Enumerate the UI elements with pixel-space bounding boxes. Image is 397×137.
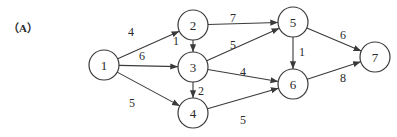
network-diagram: （A） 465175245168 1234567 (0, 0, 397, 137)
node-7: 7 (360, 42, 390, 72)
arrow-icon (118, 31, 180, 59)
edge-weight-5-7: 6 (340, 28, 346, 42)
node-5: 5 (278, 7, 308, 37)
arrow-icon (307, 62, 361, 80)
edge-weight-1-3: 6 (139, 49, 145, 63)
arrow-icon (307, 28, 361, 51)
edge-weights-layer: 465175245168 (128, 11, 346, 127)
arrow-icon (119, 65, 178, 66)
edge-weight-2-5: 7 (230, 11, 236, 25)
edge-weight-3-6: 4 (240, 65, 246, 79)
edge-5-7 (307, 28, 361, 51)
node-label: 5 (290, 15, 297, 30)
node-label: 4 (190, 106, 197, 121)
edge-weight-4-6: 5 (240, 113, 246, 127)
arrow-icon (207, 88, 278, 109)
edge-1-4 (117, 72, 180, 106)
figure-label: （A） (8, 22, 38, 34)
node-label: 7 (372, 50, 379, 65)
node-2: 2 (178, 10, 208, 40)
edge-4-6 (207, 88, 278, 109)
edge-1-3 (119, 65, 178, 66)
node-label: 6 (290, 77, 297, 92)
node-4: 4 (178, 98, 208, 128)
edge-weight-2-3: 1 (173, 34, 179, 48)
arrow-icon (208, 22, 278, 24)
node-6: 6 (278, 69, 308, 99)
edge-weight-1-4: 5 (129, 96, 135, 110)
edge-weight-3-4: 2 (198, 84, 204, 98)
edge-6-7 (307, 62, 361, 80)
edge-weight-5-6: 1 (299, 45, 305, 59)
node-3: 3 (178, 52, 208, 82)
node-1: 1 (89, 50, 119, 80)
edge-1-2 (118, 31, 180, 59)
node-label: 3 (190, 60, 197, 75)
edge-weight-3-5: 5 (230, 38, 236, 52)
edge-3-5 (207, 28, 280, 61)
edge-2-5 (208, 22, 278, 24)
node-label: 1 (101, 58, 108, 73)
arrow-icon (207, 28, 280, 61)
arrow-icon (117, 72, 180, 106)
edge-weight-6-7: 8 (340, 71, 346, 85)
node-label: 2 (190, 18, 197, 33)
edge-weight-1-2: 4 (128, 25, 134, 39)
